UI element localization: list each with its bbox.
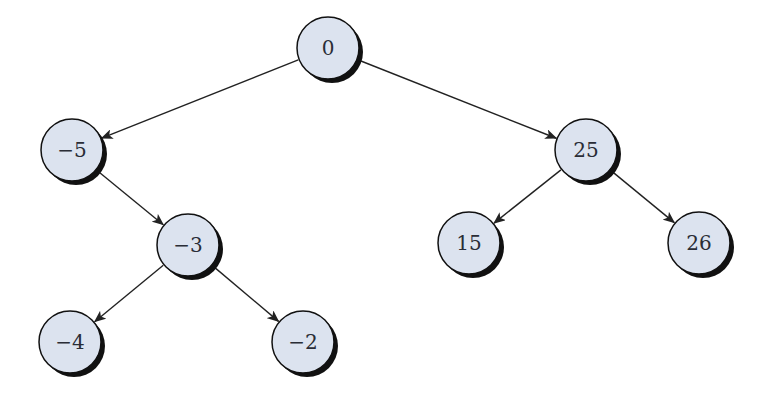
tree-node: 26 (668, 212, 734, 278)
node-label: −2 (288, 330, 317, 354)
edges-layer (95, 60, 675, 322)
node-label: 15 (456, 231, 481, 255)
tree-node: 15 (438, 212, 504, 278)
tree-node: −5 (41, 119, 107, 185)
node-label: 0 (322, 36, 335, 60)
edge-arrow (358, 60, 556, 138)
node-label: −3 (173, 233, 202, 257)
edge-arrow (95, 265, 164, 321)
tree-node: −2 (272, 311, 338, 377)
edge-arrow (212, 266, 278, 322)
node-label: −5 (57, 138, 86, 162)
tree-diagram: 0−525−31526−4−2 (0, 0, 770, 395)
edge-arrow (494, 170, 561, 223)
edge-arrow (611, 170, 675, 222)
tree-node: −3 (157, 214, 223, 280)
node-label: 26 (686, 231, 711, 255)
edge-arrow (97, 170, 163, 224)
edge-arrow (102, 60, 299, 138)
tree-node: 0 (297, 17, 363, 83)
node-label: 25 (573, 138, 598, 162)
node-label: −4 (55, 330, 84, 354)
tree-node: 25 (555, 119, 621, 185)
